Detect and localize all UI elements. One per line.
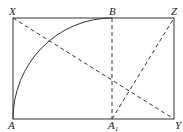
label-Z: Z [171, 5, 178, 17]
quarter-arc-A-to-B [13, 18, 112, 119]
label-A1-subscript: 1 [115, 125, 119, 132]
label-A: A [7, 119, 15, 131]
dashed-diagonal-X-Y [13, 18, 174, 119]
label-A1: A1 [107, 119, 118, 132]
label-Y: Y [175, 119, 183, 131]
golden-rectangle-diagram: X B Z A A1 Y [0, 0, 183, 132]
dashed-diagonal-A1-Z [112, 18, 174, 119]
label-B: B [109, 5, 116, 17]
label-X: X [8, 5, 17, 17]
